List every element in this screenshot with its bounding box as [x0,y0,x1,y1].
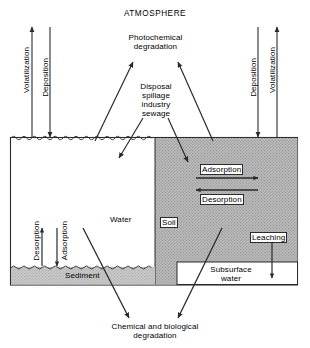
label-soil: Soil [160,217,178,228]
diagram-graphics [0,0,310,348]
source-line-3: industry [126,100,186,109]
label-volatilization-left: Volatilization [22,47,31,93]
label-source-inputs: Disposal spillage industry sewage [126,82,186,118]
diagram-canvas: ATMOSPHERE Volatilization Deposition Dep… [0,0,310,348]
degradation-line-2: degradation [65,331,245,340]
source-line-1: Disposal [126,82,186,91]
source-line-2: spillage [126,91,186,100]
label-volatilization-right: Volatilization [268,47,277,93]
label-desorption-sediment: Desorption [32,221,41,261]
label-desorption-soil: Desorption [200,194,244,205]
label-deposition-right: Deposition [249,58,258,97]
degradation-line-1: Chemical and biological [65,322,245,331]
subsurface-water-line-2: water [196,274,266,283]
label-subsurface-water: Subsurface water [196,265,266,283]
label-photochemical-degradation: Photochemical degradation [104,33,207,51]
label-deposition-left: Deposition [41,58,50,97]
photochemical-line-1: Photochemical [104,33,207,42]
atmosphere-title: ATMOSPHERE [0,9,310,18]
label-adsorption-soil: Adsorption [200,164,243,175]
label-water: Water [110,215,132,224]
photochemical-line-2: degradation [104,42,207,51]
label-chemical-biological-degradation: Chemical and biological degradation [65,322,245,340]
source-line-4: sewage [126,109,186,118]
label-adsorption-sediment: Adsorption [60,221,69,260]
label-leaching: Leaching [250,232,287,243]
subsurface-water-line-1: Subsurface [196,265,266,274]
label-sediment: Sediment [65,271,100,280]
